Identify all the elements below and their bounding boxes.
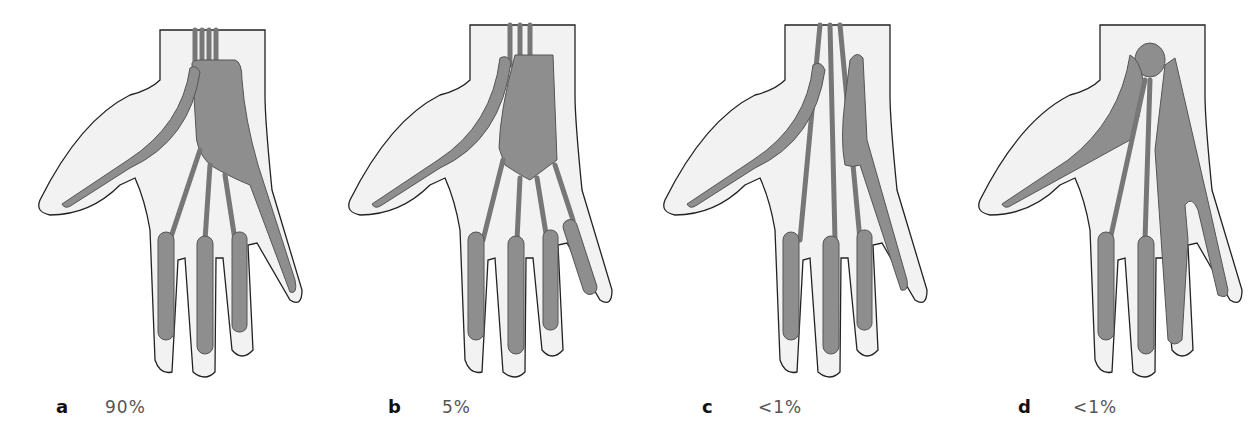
hand-illustration-b	[315, 0, 630, 380]
panel-percentage: <1%	[758, 397, 802, 417]
panel-a: a 90%	[0, 0, 315, 435]
panel-letter: d	[1018, 396, 1031, 417]
hand-illustration-d	[945, 0, 1260, 380]
panel-letter: b	[388, 396, 401, 417]
hand-illustration-a	[0, 0, 315, 380]
panel-percentage: 90%	[105, 397, 146, 417]
panel-letter: c	[702, 396, 713, 417]
hand-illustration-c	[630, 0, 945, 380]
panel-percentage: <1%	[1073, 397, 1117, 417]
panel-c: c <1%	[630, 0, 945, 435]
panel-b: b 5%	[315, 0, 630, 435]
panel-percentage: 5%	[442, 397, 471, 417]
panel-letter: a	[56, 396, 68, 417]
panel-d: d <1%	[945, 0, 1260, 435]
